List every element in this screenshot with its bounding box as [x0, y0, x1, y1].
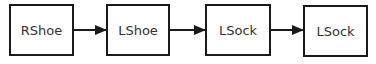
node-label: LSock	[219, 23, 257, 38]
node-label: LSock	[316, 24, 354, 39]
arrow-rshoe-to-lshoe	[74, 29, 106, 31]
node-lsock-1: LSock	[205, 4, 271, 56]
arrow-lshoe-to-lsock	[170, 29, 205, 31]
node-label: LShoe	[118, 23, 158, 38]
node-label: RShoe	[21, 23, 62, 38]
node-lshoe: LShoe	[106, 4, 170, 56]
node-lsock-2: LSock	[303, 5, 368, 57]
node-rshoe: RShoe	[9, 4, 74, 56]
arrow-lsock-to-lsock	[271, 29, 303, 31]
